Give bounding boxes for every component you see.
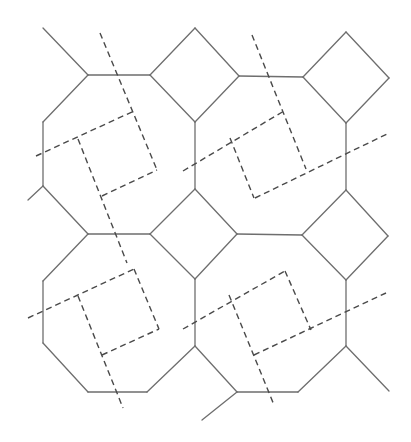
tiling-edge [298,346,346,392]
dashed-lattice-line [78,139,127,263]
tiling-edge [346,32,389,78]
tiling-edge [150,234,195,279]
tiling-edge [43,234,88,281]
tiling-edge [195,234,237,279]
tiling-edge [43,343,88,392]
dashed-lattice-line [229,295,274,405]
tiling-edge [303,77,346,123]
dashed-lattice-line [183,271,285,329]
octagon-square-tiling-figure [0,0,411,442]
dashed-lattice-line [102,329,159,355]
tiling-edge [28,186,43,200]
dashed-lattice-line [285,271,311,330]
dashed-lattice-line [102,170,157,196]
dashed-lattice-line [100,33,157,170]
tiling-edge [239,76,303,77]
dashed-lattice-line [255,133,389,198]
dashed-lattice-line [78,296,123,408]
tiling-edge [303,32,346,77]
tiling-edge [150,75,195,122]
tiling-diagram [0,0,411,442]
dashed-lattice-line [254,293,386,355]
dashed-lattice-line [183,111,284,171]
tiling-edge [302,190,346,235]
tiling-edge [195,76,239,122]
tiling-edge [346,346,389,391]
tiling-edge [43,186,88,234]
tiling-edge [195,189,237,234]
tiling-edge [150,189,195,234]
tiling-edge [43,75,88,122]
tiling-edge [43,28,88,75]
dashed-lattice-line [28,269,134,318]
tiling-edge [302,235,346,280]
dashed-lattice-line [36,111,134,156]
dashed-lattice-line [230,138,254,198]
dashed-lattice-line [252,35,306,169]
tiling-edge [346,190,388,236]
dashed-lattice-line [134,269,159,329]
tiling-edge [202,392,237,420]
tiling-edge [346,78,389,123]
tiling-edge [346,236,388,280]
tiling-edge [237,234,302,235]
dashed-square-lattice [28,33,389,408]
tiling-edge [150,28,195,75]
octagon-square-edges [28,28,389,420]
tiling-edge [195,346,237,392]
tiling-edge [147,346,195,392]
tiling-edge [195,28,239,76]
